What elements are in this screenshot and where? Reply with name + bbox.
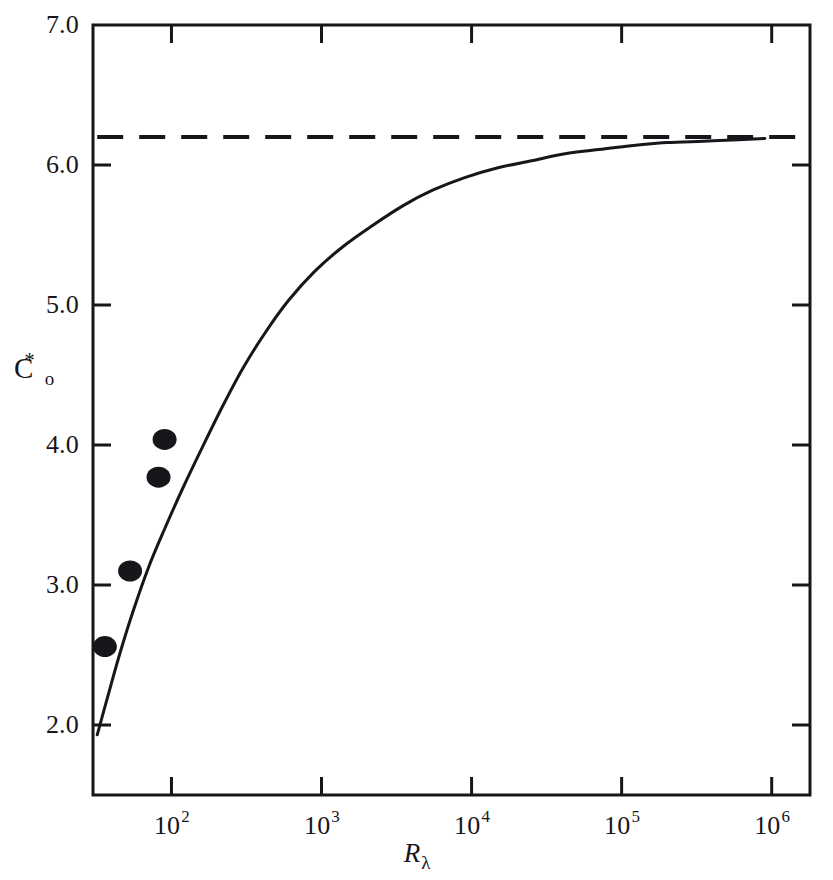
x-tick-base: 10: [454, 811, 480, 840]
y-axis-superscript: *: [24, 348, 35, 372]
x-tick-label: 105: [604, 809, 639, 841]
y-tick-label: 3.0: [0, 570, 79, 600]
data-point: [153, 429, 177, 450]
y-axis-ticks-right: [792, 165, 810, 725]
data-point: [93, 636, 117, 657]
x-tick-exponent: 4: [481, 807, 490, 826]
y-tick-label: 2.0: [0, 710, 79, 740]
y-axis-title: C*o: [14, 352, 53, 385]
x-tick-exponent: 6: [782, 807, 791, 826]
x-tick-label: 103: [304, 809, 339, 841]
y-tick-label: 5.0: [0, 290, 79, 320]
x-tick-exponent: 2: [181, 807, 190, 826]
figure-container: 2.03.04.05.06.07.0 102103104105106 C*o R…: [0, 0, 833, 880]
x-tick-exponent: 3: [331, 807, 340, 826]
y-tick-label: 4.0: [0, 430, 79, 460]
x-tick-label: 102: [154, 809, 189, 841]
x-tick-base: 10: [754, 811, 780, 840]
data-point: [118, 561, 142, 582]
x-tick-base: 10: [604, 811, 630, 840]
x-tick-label: 104: [454, 809, 489, 841]
x-tick-exponent: 5: [631, 807, 640, 826]
y-tick-label: 6.0: [0, 150, 79, 180]
model-curve-line: [97, 138, 765, 734]
caption-strip: [0, 866, 833, 880]
y-axis-subscript: o: [45, 368, 55, 389]
x-tick-label: 106: [754, 809, 789, 841]
plot-canvas: [0, 0, 833, 880]
x-axis-ticks-top: [171, 25, 771, 43]
x-tick-base: 10: [304, 811, 330, 840]
x-axis-title: Rλ: [0, 838, 833, 869]
data-point-group: [93, 429, 177, 657]
x-axis-ticks: [171, 777, 771, 795]
x-axis-symbol: R: [404, 838, 421, 868]
y-tick-label: 7.0: [0, 10, 79, 40]
x-tick-base: 10: [154, 811, 180, 840]
data-point: [147, 467, 171, 488]
